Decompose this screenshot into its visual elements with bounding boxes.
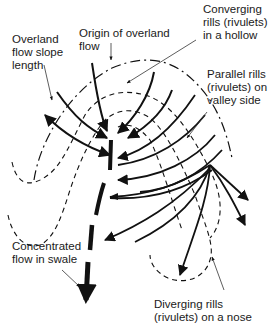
parallel-rills [105,95,222,240]
label-line: flow in swale [12,253,81,266]
label-line: Origin of overland [79,27,170,40]
label-line: Parallel rills [207,68,267,81]
label-overland-flow-slope-length: Overland flow slope length [12,33,63,72]
concentrated-flow-channel [86,140,111,300]
label-line: (rivulets) on a nose [154,311,252,324]
label-line: Diverging rills [154,298,252,311]
label-line: flow [79,40,170,53]
label-line: (rivulets) on [207,81,267,94]
label-concentrated-flow: Concentrated flow in swale [12,240,81,266]
label-converging-rills: Converging rills (rivulets) in a hollow [203,3,268,42]
label-line: in a hollow [203,29,268,42]
diverging-rills [135,165,248,275]
label-line: Converging [203,3,268,16]
label-diverging-rills: Diverging rills (rivulets) on a nose [154,298,252,324]
label-origin-of-overland-flow: Origin of overland flow [79,27,170,53]
label-parallel-rills: Parallel rills (rivulets) on valley side [207,68,267,107]
rill-flow-diagram: Overland flow slope length Origin of ove… [0,0,270,325]
label-line: valley side [207,94,267,107]
label-line: length [12,59,63,72]
label-line: flow slope [12,46,63,59]
label-line: Concentrated [12,240,81,253]
label-line: Overland [12,33,63,46]
label-line: rills (rivulets) [203,16,268,29]
